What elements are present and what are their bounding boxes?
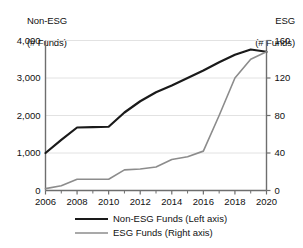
legend-label-non-esg: Non-ESG Funds (Left axis) (113, 213, 227, 224)
series-line-non-esg (46, 50, 267, 154)
data-series (46, 50, 267, 189)
x-tick-label-2018: 2018 (224, 196, 245, 207)
y2-tick-label-0: 0 (275, 185, 280, 196)
y-axis-tick-labels: 01,0002,0003,0004,000 (17, 35, 41, 196)
x-tick-label-2016: 2016 (193, 196, 214, 207)
x-tick-label-2006: 2006 (35, 196, 56, 207)
series-line-esg (46, 52, 267, 189)
chart-legend: Non-ESG Funds (Left axis)ESG Funds (Righ… (75, 213, 227, 238)
x-tick-label-2020: 2020 (256, 196, 277, 207)
x-tick-label-2014: 2014 (161, 196, 182, 207)
y2-tick-label-80: 80 (275, 110, 286, 121)
y-tick-label-4000: 4,000 (17, 35, 41, 46)
x-tick-label-2012: 2012 (130, 196, 151, 207)
y2-axis-tick-labels: 04080120160 (275, 35, 291, 196)
chart-plot: 01,0002,0003,0004,000 04080120160 200620… (0, 0, 303, 248)
legend-label-esg: ESG Funds (Right axis) (113, 227, 213, 238)
y-tick-label-2000: 2,000 (17, 110, 41, 121)
y-tick-label-3000: 3,000 (17, 72, 41, 83)
x-tick-label-2008: 2008 (67, 196, 88, 207)
x-axis-tick-labels: 20062008201020122014201620182020 (35, 196, 277, 207)
gridlines (46, 41, 267, 154)
y-tick-label-1000: 1,000 (17, 147, 41, 158)
y-tick-label-0: 0 (35, 185, 40, 196)
y2-tick-label-120: 120 (275, 72, 291, 83)
y2-tick-label-160: 160 (275, 35, 291, 46)
chart-container: Non-ESG (# Funds) ESG (# Funds) 01,0002,… (0, 0, 303, 248)
y2-tick-label-40: 40 (275, 147, 286, 158)
x-tick-label-2010: 2010 (98, 196, 119, 207)
